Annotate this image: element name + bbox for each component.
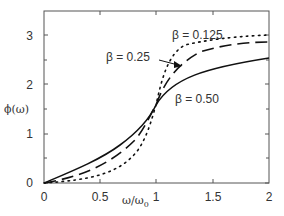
x-tick-1: 1: [153, 190, 160, 204]
x-tick-2: 2: [266, 190, 273, 204]
x-tick-1.5: 1.5: [205, 190, 222, 204]
annotation-beta-0.25: β = 0.25: [106, 50, 150, 64]
y-axis-ticks: [44, 35, 269, 183]
annotation-beta-0.50: β = 0.50: [175, 92, 219, 106]
x-tick-0.5: 0.5: [92, 190, 109, 204]
y-axis-label: ϕ(ω): [4, 103, 29, 116]
y-tick-2: 2: [26, 78, 33, 92]
x-tick-0: 0: [41, 190, 48, 204]
curve-beta-0.25: [44, 42, 269, 183]
y-tick-0: 0: [26, 176, 33, 190]
chart: 0 1 2 3 0 0.5 1 1.5 2 ϕ(ω) ω/ω0 β = 0.12…: [0, 0, 284, 216]
x-axis-label: ω/ω0: [122, 194, 149, 209]
curve-beta-0.125: [44, 35, 269, 183]
y-tick-1: 1: [26, 127, 33, 141]
y-tick-3: 3: [26, 29, 33, 43]
curve-beta-0.50: [44, 58, 269, 183]
annotation-beta-0.125: β = 0.125: [172, 28, 223, 42]
